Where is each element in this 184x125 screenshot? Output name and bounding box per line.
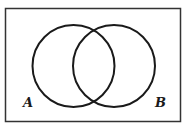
venn-diagram: A B	[0, 0, 184, 125]
set-b-label: B	[154, 95, 166, 110]
set-a-label: A	[21, 95, 33, 110]
